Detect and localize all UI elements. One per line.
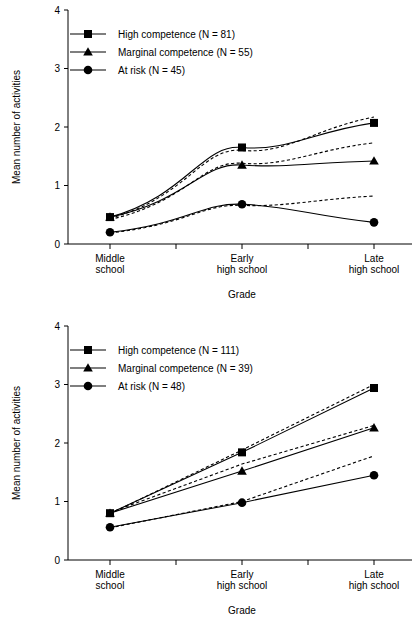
x-axis-title: Grade [228, 289, 256, 300]
x-category-labels: MiddleschoolEarlyhigh schoolLatehigh sch… [95, 569, 399, 591]
legend-marker [84, 30, 92, 38]
x-category-label: school [96, 264, 125, 275]
x-axis-ticks [110, 244, 374, 249]
circle-marker [238, 498, 247, 507]
legend: High competence (N = 81)Marginal compete… [70, 29, 253, 76]
x-category-label: Late [364, 569, 384, 580]
y-axis-ticks: 01234 [54, 5, 68, 250]
chart-bottom-svg: 01234MiddleschoolEarlyhigh schoolLatehig… [0, 316, 420, 632]
legend-marker [84, 382, 93, 391]
x-category-label: Middle [95, 569, 125, 580]
triangle-marker [83, 363, 93, 371]
series-group [105, 384, 379, 532]
chart-panel-bottom: 01234MiddleschoolEarlyhigh schoolLatehig… [0, 316, 420, 632]
y-tick-label: 2 [54, 122, 60, 133]
circle-marker [238, 200, 247, 209]
legend-label: Marginal competence (N = 55) [118, 47, 253, 58]
circle-marker [106, 523, 115, 532]
legend-label: At risk (N = 45) [118, 65, 185, 76]
triangle-marker [369, 156, 379, 164]
y-axis-title: Mean number of activities [11, 386, 22, 500]
y-tick-label: 0 [54, 239, 60, 250]
y-tick-label: 3 [54, 63, 60, 74]
legend-marker [84, 66, 93, 75]
y-axis-ticks: 01234 [54, 321, 68, 566]
y-tick-label: 1 [54, 180, 60, 191]
legend-marker [84, 346, 92, 354]
x-category-label: school [96, 580, 125, 591]
x-category-label: Early [231, 253, 254, 264]
circle-marker [84, 382, 93, 391]
square-marker [370, 119, 378, 127]
circle-marker [370, 471, 379, 480]
triangle-marker [83, 47, 93, 55]
y-axis-title: Mean number of activities [11, 70, 22, 184]
y-tick-label: 2 [54, 438, 60, 449]
circle-marker [84, 66, 93, 75]
series-group [105, 117, 379, 237]
x-axis-title: Grade [228, 605, 256, 616]
x-category-label: high school [349, 580, 400, 591]
circle-marker [106, 228, 115, 237]
y-tick-label: 3 [54, 379, 60, 390]
legend: High competence (N = 111)Marginal compet… [70, 345, 253, 392]
square-marker [238, 448, 246, 456]
legend-label: High competence (N = 81) [118, 29, 235, 40]
square-marker [238, 143, 246, 151]
legend-marker [83, 47, 93, 55]
y-tick-label: 0 [54, 555, 60, 566]
y-tick-label: 4 [54, 5, 60, 16]
chart-panel-top: 01234MiddleschoolEarlyhigh schoolLatehig… [0, 0, 420, 316]
x-category-label: Early [231, 569, 254, 580]
axes [68, 10, 412, 244]
chart-top-svg: 01234MiddleschoolEarlyhigh schoolLatehig… [0, 0, 420, 316]
triangle-marker [369, 423, 379, 431]
y-tick-label: 1 [54, 496, 60, 507]
circle-marker [370, 218, 379, 227]
x-category-label: high school [349, 264, 400, 275]
legend-label: At risk (N = 48) [118, 381, 185, 392]
square-marker [84, 30, 92, 38]
legend-label: High competence (N = 111) [118, 345, 239, 356]
y-tick-label: 4 [54, 321, 60, 332]
square-marker [370, 384, 378, 392]
legend-marker [83, 363, 93, 371]
x-axis-ticks [110, 560, 374, 565]
series-line-solid [110, 161, 374, 217]
x-category-label: high school [217, 580, 268, 591]
square-marker [84, 346, 92, 354]
x-category-label: Middle [95, 253, 125, 264]
x-category-labels: MiddleschoolEarlyhigh schoolLatehigh sch… [95, 253, 399, 275]
x-category-label: high school [217, 264, 268, 275]
x-category-label: Late [364, 253, 384, 264]
legend-label: Marginal competence (N = 39) [118, 363, 253, 374]
